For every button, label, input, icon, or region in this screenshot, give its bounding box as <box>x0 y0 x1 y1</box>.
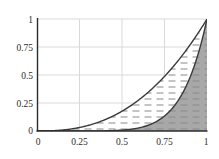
xtick-label: 0.75 <box>156 137 173 147</box>
ytick-label: 1 <box>28 15 33 25</box>
ytick-label: 0.25 <box>16 99 33 109</box>
ytick-label: 0 <box>28 126 33 136</box>
xtick-label: 0.25 <box>71 137 88 147</box>
x-axis-ticklabels: 0 0.25 0.5 0.75 1 <box>36 137 209 147</box>
ytick-label: 0.5 <box>21 71 33 81</box>
y-axis-ticklabels: 1 0.75 0.5 0.25 0 <box>16 15 33 136</box>
xtick-label: 1 <box>204 137 209 147</box>
xtick-label: 0 <box>36 137 41 147</box>
chart-figure: 1 0.75 0.5 0.25 0 0 0.25 0.5 0.75 1 <box>0 0 219 159</box>
xtick-label: 0.5 <box>116 137 128 147</box>
chart-plot: 1 0.75 0.5 0.25 0 0 0.25 0.5 0.75 1 <box>0 0 219 159</box>
ytick-label: 0.75 <box>16 43 33 53</box>
